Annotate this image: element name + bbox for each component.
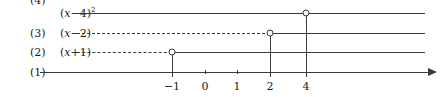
axis-tick-neg1 (172, 68, 173, 77)
axis-tick-label-1: 1 (234, 80, 241, 93)
axis-tick-1 (237, 70, 238, 74)
axis-line (40, 72, 428, 73)
axis-tick-label-2: 2 (267, 80, 274, 93)
row-index-2: (2) (30, 47, 46, 58)
axis-tick-label-4: 4 (303, 80, 310, 93)
axis-tick-0 (205, 70, 206, 74)
row-index-3: (3) (30, 28, 46, 39)
axis-tick-label-neg1: −1 (164, 80, 180, 93)
row-line-3-solid (270, 33, 425, 34)
number-line-diagram: (4) (x−4)2 (3) (x−2) (2) (x+1) (1) −1 0 … (0, 0, 443, 97)
axis-tick-4 (306, 68, 307, 77)
row-line-2-solid (172, 52, 425, 53)
open-circle-marker-3 (267, 30, 274, 37)
axis-tick-2 (270, 68, 271, 77)
open-circle-marker-2 (169, 49, 176, 56)
row-line-3-dashed (72, 33, 270, 34)
open-circle-marker-4 (303, 10, 310, 17)
row-index-4: (4) (30, 0, 46, 6)
row-line-4 (72, 13, 425, 14)
row-line-2-dashed (72, 52, 172, 53)
axis-arrow-icon (428, 68, 437, 76)
axis-tick-label-0: 0 (202, 80, 209, 93)
drop-line-4 (306, 13, 307, 72)
